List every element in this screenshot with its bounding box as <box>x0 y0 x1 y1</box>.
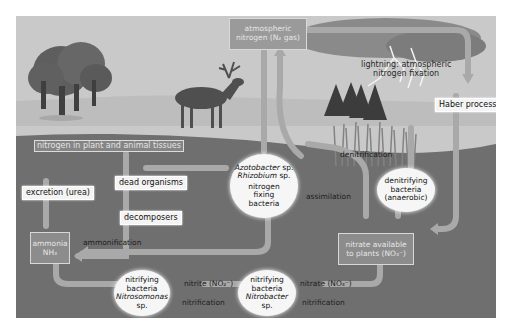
denitrification-label: denitrification <box>340 150 392 159</box>
atmospheric-line1: atmospheric <box>230 24 306 33</box>
nitrosomonas-oval: nitrifying bacteria Nitrosomonas sp. <box>114 270 170 316</box>
nitrate-flow-label: nitrate (NO₃⁻) <box>300 279 352 288</box>
nitrogen-cycle-diagram: atmospheric nitrogen (N₂ gas) lightning:… <box>16 16 496 318</box>
lightning-line2: nitrogen fixation <box>361 69 451 78</box>
ammonia-line1: ammonia <box>31 239 69 248</box>
ammonia-box: ammonia NH₃ <box>30 232 70 264</box>
lightning-label: lightning: atmospheric nitrogen fixation <box>361 60 451 78</box>
nitrate-line2: to plants (NO₃⁻) <box>339 249 413 258</box>
lightning-line1: lightning: atmospheric <box>361 60 451 69</box>
dead-organisms-box: dead organisms <box>115 176 187 190</box>
nitrate-available-box: nitrate available to plants (NO₃⁻) <box>338 233 414 265</box>
haber-process-box: Haber process <box>435 98 496 112</box>
nitrate-line1: nitrate available <box>339 240 413 249</box>
rhizobium-sp: sp. <box>277 171 290 180</box>
nitrogen-fixing-bacteria-oval: Azotobacter sp. Rhizobium sp. nitrogen f… <box>230 154 298 218</box>
atmospheric-nitrogen-box: atmospheric nitrogen (N₂ gas) <box>229 18 307 50</box>
atmospheric-line2: nitrogen (N₂ gas) <box>230 33 306 42</box>
nitrite-label: nitrite (NO₂⁻) <box>184 279 233 288</box>
denitrifying-line3: (anaerobic) <box>377 194 435 203</box>
nitrobacter-genus: Nitrobacter <box>246 292 288 301</box>
ammonification-label: ammonification <box>83 238 141 247</box>
nitrification-label-1: nitrification <box>182 298 225 307</box>
denitrifying-bacteria-oval: denitrifying bacteria (anaerobic) <box>377 168 435 212</box>
assimilation-label: assimilation <box>306 192 351 201</box>
plant-animal-tissues-box: nitrogen in plant and animal tissues <box>34 140 184 152</box>
nitrobacter-oval: nitrifying bacteria Nitrobacter sp. <box>238 270 296 316</box>
nitrification-label-2: nitrification <box>302 298 345 307</box>
ammonia-line2: NH₃ <box>31 248 69 257</box>
nitrosomonas-genus: Nitrosomonas <box>116 292 168 301</box>
fixing-line5: bacteria <box>230 200 298 209</box>
nitrosomonas-line4: sp. <box>114 302 170 311</box>
nitrobacter-line4: sp. <box>238 302 296 311</box>
excretion-urea-box: excretion (urea) <box>22 186 94 200</box>
decomposers-box: decomposers <box>120 211 182 225</box>
rhizobium-label: Rhizobium <box>238 171 277 180</box>
